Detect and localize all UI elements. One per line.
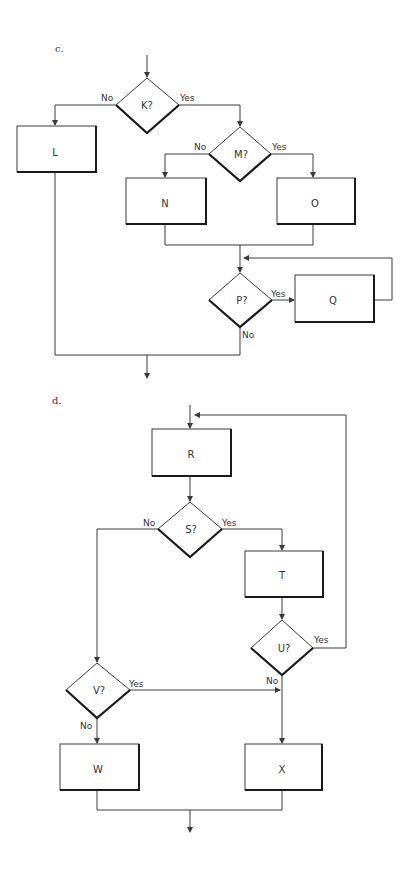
decision-m-label: M? bbox=[234, 149, 248, 160]
process-l: L bbox=[17, 126, 96, 172]
process-o-label: O bbox=[311, 198, 319, 209]
edge-label-v-yes: Yes bbox=[128, 679, 144, 689]
part-label-d: d. bbox=[52, 395, 62, 406]
decision-p-label: P? bbox=[236, 295, 247, 306]
edge-label-u-no: No bbox=[266, 676, 279, 686]
process-x-label: X bbox=[279, 764, 286, 775]
process-q-label: Q bbox=[329, 295, 337, 306]
edge-label-u-yes: Yes bbox=[313, 635, 329, 645]
process-w-label: W bbox=[93, 764, 103, 775]
edge-label-m-yes: Yes bbox=[271, 142, 287, 152]
flowchart-canvas: c. K? No Yes bbox=[0, 0, 407, 874]
edge-label-s-no: No bbox=[143, 518, 156, 528]
flowchart-c: c. K? No Yes bbox=[17, 43, 392, 378]
decision-k: K? bbox=[116, 78, 179, 133]
flowchart-d: d. R bbox=[52, 395, 346, 832]
process-q: Q bbox=[295, 275, 374, 322]
process-r-label: R bbox=[188, 449, 195, 460]
decision-u-label: U? bbox=[278, 643, 291, 654]
process-w: W bbox=[60, 744, 139, 790]
part-label-c: c. bbox=[55, 43, 64, 54]
decision-k-label: K? bbox=[141, 100, 153, 111]
decision-s-label: S? bbox=[185, 524, 197, 535]
decision-v-label: V? bbox=[93, 685, 105, 696]
process-x: X bbox=[245, 744, 322, 790]
decision-v: V? bbox=[66, 663, 130, 718]
process-r: R bbox=[152, 429, 231, 476]
process-n: N bbox=[126, 178, 206, 224]
edge-label-m-no: No bbox=[194, 142, 207, 152]
edge-label-p-no: No bbox=[242, 330, 255, 340]
edge-label-k-yes: Yes bbox=[179, 93, 195, 103]
process-o: O bbox=[277, 178, 355, 224]
process-t-label: T bbox=[278, 570, 286, 581]
process-n-label: N bbox=[161, 198, 168, 209]
edge-label-s-yes: Yes bbox=[221, 518, 237, 528]
decision-s: S? bbox=[158, 502, 222, 557]
decision-u: U? bbox=[251, 620, 313, 675]
edge-label-p-yes: Yes bbox=[270, 289, 286, 299]
decision-m: M? bbox=[209, 127, 271, 181]
process-l-label: L bbox=[52, 147, 58, 158]
process-t: T bbox=[245, 551, 323, 597]
decision-p: P? bbox=[209, 273, 272, 327]
edge-label-v-no: No bbox=[80, 721, 93, 731]
edge-label-k-no: No bbox=[101, 93, 114, 103]
